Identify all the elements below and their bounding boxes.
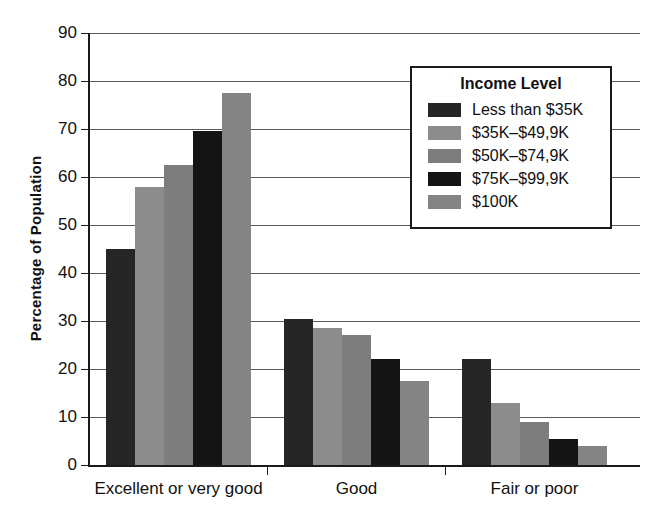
legend-color-swatch: [428, 195, 461, 209]
y-axis-tick-label: 20: [37, 359, 77, 379]
y-axis-tick-label: 40: [37, 263, 77, 283]
y-axis-tick-mark: [81, 129, 90, 130]
x-axis-tick-mark: [267, 465, 268, 475]
bar: [284, 319, 313, 465]
bar-group: [284, 33, 429, 465]
x-axis-category-label: Excellent or very good: [84, 479, 274, 500]
legend-entry-label: $75K–$99,9K: [472, 170, 569, 188]
legend-entry: $75K–$99,9K: [412, 167, 610, 190]
legend-color-swatch: [428, 126, 461, 140]
bar-chart-figure: Percentage of Population 010203040506070…: [0, 0, 665, 525]
bar: [400, 381, 429, 465]
bar: [549, 439, 578, 465]
y-axis-tick-mark: [81, 225, 90, 226]
y-axis-tick-label: 50: [37, 215, 77, 235]
y-axis-tick-mark: [81, 465, 90, 466]
chart-legend: Income Level Less than $35K$35K–$49,9K$5…: [410, 66, 612, 229]
y-axis-tick-label: 80: [37, 71, 77, 91]
bar: [342, 335, 371, 465]
bar: [193, 131, 222, 465]
legend-entry: Less than $35K: [412, 98, 610, 121]
legend-entry-list: Less than $35K$35K–$49,9K$50K–$74,9K$75K…: [412, 98, 610, 213]
y-axis-tick-label: 0: [37, 455, 77, 475]
y-axis-tick-label: 90: [37, 23, 77, 43]
legend-color-swatch: [428, 172, 461, 186]
y-axis-tick-mark: [81, 369, 90, 370]
legend-color-swatch: [428, 149, 461, 163]
legend-entry: $50K–$74,9K: [412, 144, 610, 167]
y-axis-tick-mark: [81, 321, 90, 322]
x-axis-category-label: Good: [262, 479, 452, 500]
bar: [520, 422, 549, 465]
legend-entry-label: $100K: [472, 193, 518, 211]
y-axis-title: Percentage of Population: [27, 109, 44, 389]
legend-entry-label: Less than $35K: [472, 101, 583, 119]
y-axis-tick-label: 10: [37, 407, 77, 427]
bar: [462, 359, 491, 465]
bar: [222, 93, 251, 465]
y-axis-tick-label: 60: [37, 167, 77, 187]
y-axis-tick-mark: [81, 177, 90, 178]
legend-entry-label: $50K–$74,9K: [472, 147, 569, 165]
y-axis-tick-mark: [81, 417, 90, 418]
y-axis-tick-label: 30: [37, 311, 77, 331]
bar: [313, 328, 342, 465]
legend-title: Income Level: [412, 75, 610, 93]
legend-entry: $35K–$49,9K: [412, 121, 610, 144]
bar: [164, 165, 193, 465]
legend-color-swatch: [428, 103, 461, 117]
x-axis-category-label: Fair or poor: [440, 479, 630, 500]
bar: [491, 403, 520, 465]
bar-group: [106, 33, 251, 465]
bar: [371, 359, 400, 465]
y-axis-tick-mark: [81, 81, 90, 82]
y-axis-tick-mark: [81, 33, 90, 34]
legend-entry-label: $35K–$49,9K: [472, 124, 569, 142]
y-axis-tick-label: 70: [37, 119, 77, 139]
bar: [135, 187, 164, 465]
bar: [106, 249, 135, 465]
legend-entry: $100K: [412, 190, 610, 213]
y-axis-tick-mark: [81, 273, 90, 274]
x-axis-tick-mark: [445, 465, 446, 475]
bar: [578, 446, 607, 465]
